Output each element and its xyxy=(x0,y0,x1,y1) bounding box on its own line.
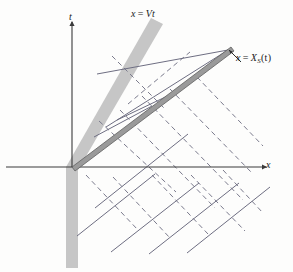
solid-line xyxy=(111,183,199,252)
piston-path-label: x=Vt xyxy=(131,9,155,19)
dashed-line xyxy=(113,177,170,238)
solid-line xyxy=(187,187,270,253)
shock-label-eq: = xyxy=(241,52,251,63)
dashed-line xyxy=(197,77,263,146)
diagram-canvas xyxy=(0,0,293,272)
dashed-line xyxy=(86,175,138,230)
shock-path-label: x=XS(t) xyxy=(236,53,271,65)
piston-label-eq: = xyxy=(136,8,146,19)
axes xyxy=(6,22,266,167)
dashed-line xyxy=(170,89,252,173)
shock-label-arg: (t) xyxy=(261,52,271,63)
t-axis-label: t xyxy=(69,12,72,22)
solid-characteristic-lines xyxy=(77,50,270,254)
spacetime-diagram-figure: t x x=Vt x=XS(t) xyxy=(0,0,293,272)
solid-line xyxy=(149,183,239,254)
x-axis-label: x xyxy=(266,160,270,170)
shock-path-line xyxy=(72,47,234,171)
piston-path-band xyxy=(66,18,163,170)
piston-label-expr: Vt xyxy=(146,8,156,19)
piston-wall-band xyxy=(66,167,78,268)
